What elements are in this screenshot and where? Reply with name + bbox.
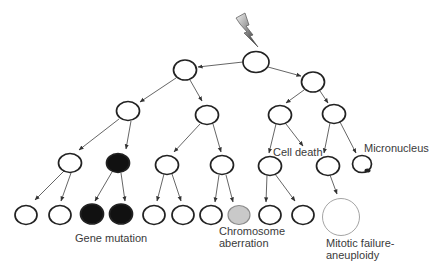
- cell-node-g3-b: [107, 154, 130, 173]
- cell-node-g3-e: [259, 157, 282, 176]
- arrow-g1-right-to-g2-c: [286, 90, 304, 103]
- arrow-g3-f-to-g4-aneuploid: [330, 175, 337, 194]
- cell-node-g3-f: [317, 157, 340, 176]
- cell-node-g2-d: [323, 105, 346, 124]
- arrow-g3-e-to-g4-10: [275, 174, 295, 201]
- arrow-g1-left-to-g2-b: [190, 80, 202, 101]
- cell-nodes: [15, 52, 372, 236]
- cell-node-root: [243, 52, 269, 73]
- cell-node-g4-8: [228, 206, 250, 225]
- label-mitotic-failure-line1: Mitotic failure-: [326, 237, 395, 249]
- arrow-g3-c-to-g4-6: [172, 174, 181, 201]
- arrow-g3-d-to-g4-7: [215, 175, 219, 202]
- label-chromosome-aberration-line2: aberration: [219, 237, 269, 249]
- arrow-root-to-g1-right: [268, 67, 301, 76]
- lightning-bolt-icon: [236, 13, 258, 47]
- cell-node-g2-a: [117, 102, 140, 121]
- cell-node-g2-b: [196, 106, 219, 125]
- arrow-root-to-g1-left: [198, 62, 243, 67]
- arrow-g2-b-to-g3-d: [213, 124, 221, 152]
- cell-node-g4-7: [200, 206, 222, 225]
- label-micronucleus: Micronucleus: [364, 142, 429, 154]
- arrow-g2-d-to-g3-micronucleus: [340, 122, 356, 153]
- arrow-g2-a-to-g3-b: [126, 121, 131, 149]
- arrow-g1-right-to-g2-d: [320, 91, 328, 103]
- cell-node-g1-right: [302, 72, 325, 92]
- cell-node-g2-c: [269, 106, 292, 125]
- micronucleus-dot: [365, 169, 371, 173]
- label-cell-death: Cell death: [273, 146, 323, 158]
- arrow-g3-a-to-g4-2: [61, 173, 71, 201]
- arrow-g2-d-to-g3-f: [324, 123, 330, 153]
- arrow-g3-b-to-g4-4: [121, 173, 125, 201]
- label-mitotic-failure-line2: aneuploidy: [326, 249, 380, 261]
- cell-node-g4-aneuploid: [323, 199, 360, 236]
- arrow-g2-b-to-g3-c: [174, 124, 200, 152]
- cell-node-g4-5: [143, 206, 165, 225]
- cell-node-g4-4: [110, 204, 133, 224]
- cell-node-g1-left: [174, 60, 197, 80]
- arrow-g3-c-to-g4-5: [157, 174, 164, 201]
- label-chromosome-aberration-line1: Chromosome: [219, 225, 285, 237]
- cell-node-g3-c: [156, 156, 179, 175]
- arrow-g3-e-to-g4-9: [266, 175, 267, 202]
- arrow-g3-b-to-g4-3: [95, 172, 112, 201]
- cell-node-g3-d: [211, 156, 234, 175]
- arrow-g2-a-to-g3-a: [79, 119, 119, 150]
- cell-node-g3-a: [59, 154, 82, 173]
- arrow-g3-a-to-g4-1: [35, 171, 64, 200]
- arrow-g3-d-to-g4-8: [226, 175, 233, 202]
- cell-node-g4-6: [172, 206, 194, 225]
- cell-node-g4-2: [49, 206, 71, 225]
- cell-node-g4-1: [15, 206, 37, 225]
- arrow-g1-left-to-g2-a: [140, 78, 176, 102]
- cell-lineage-diagram: Cell death Micronucleus Gene mutation Ch…: [0, 0, 439, 276]
- cell-node-g4-10: [292, 206, 314, 225]
- arrow-g2-c-to-cell-death: [286, 124, 303, 146]
- cell-node-g4-3: [81, 204, 104, 224]
- cell-node-g4-9: [259, 206, 281, 225]
- label-gene-mutation: Gene mutation: [75, 232, 147, 244]
